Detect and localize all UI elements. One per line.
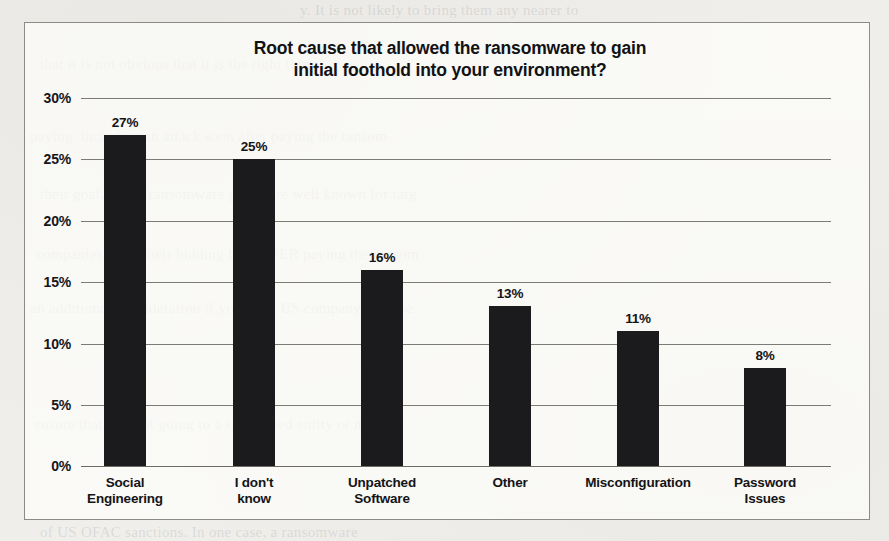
gridline-10 bbox=[81, 344, 831, 345]
bar-value-password-issues: 8% bbox=[725, 348, 805, 363]
gridline-0-baseline bbox=[81, 466, 831, 467]
bar-password-issues[interactable] bbox=[744, 368, 786, 466]
gridline-5 bbox=[81, 405, 831, 406]
bar-value-unpatched-software: 16% bbox=[342, 250, 422, 265]
ytick-label-15: 15% bbox=[25, 274, 71, 290]
bar-misconfiguration[interactable] bbox=[617, 331, 659, 466]
category-label-misconfiguration: Misconfiguration bbox=[573, 475, 703, 491]
category-label-unpatched-software: Unpatched Software bbox=[317, 475, 447, 506]
category-label-password-issues: Password Issues bbox=[700, 475, 830, 506]
bar-value-social-engineering: 27% bbox=[85, 115, 165, 130]
category-label-line: Misconfiguration bbox=[585, 475, 691, 490]
gridline-25 bbox=[81, 159, 831, 160]
ghost-text-line: of US OFAC sanctions. In one case, a ran… bbox=[40, 524, 358, 541]
category-label-line: Password bbox=[734, 475, 796, 490]
category-label-line: Other bbox=[492, 475, 527, 490]
plot-area: 30% 25% 20% 15% 10% 5% 0% 27% Social Eng… bbox=[25, 23, 871, 521]
bar-i-dont-know[interactable] bbox=[233, 159, 275, 466]
ytick-label-20: 20% bbox=[25, 213, 71, 229]
category-label-line: know bbox=[237, 491, 271, 506]
ytick-label-30: 30% bbox=[25, 90, 71, 106]
chart-container: Root cause that allowed the ransomware t… bbox=[24, 22, 870, 520]
bar-value-other: 13% bbox=[470, 286, 550, 301]
category-label-line: Social bbox=[106, 475, 145, 490]
bar-unpatched-software[interactable] bbox=[361, 270, 403, 466]
gridline-20 bbox=[81, 221, 831, 222]
category-label-line: Software bbox=[354, 491, 409, 506]
gridline-30 bbox=[81, 98, 831, 99]
ytick-label-0: 0% bbox=[25, 458, 71, 474]
category-label-line: Engineering bbox=[87, 491, 163, 506]
bar-social-engineering[interactable] bbox=[104, 135, 146, 466]
bar-value-i-dont-know: 25% bbox=[214, 139, 294, 154]
ghost-text-line: y. It is not likely to bring them any ne… bbox=[300, 2, 578, 19]
category-label-line: I don't bbox=[235, 475, 274, 490]
ytick-label-5: 5% bbox=[25, 397, 71, 413]
category-label-line: Issues bbox=[745, 491, 786, 506]
ytick-label-10: 10% bbox=[25, 336, 71, 352]
bar-value-misconfiguration: 11% bbox=[598, 311, 678, 326]
category-label-i-dont-know: I don't know bbox=[189, 475, 319, 506]
ytick-label-25: 25% bbox=[25, 151, 71, 167]
bar-other[interactable] bbox=[489, 306, 531, 466]
category-label-other: Other bbox=[445, 475, 575, 491]
category-label-social-engineering: Social Engineering bbox=[60, 475, 190, 506]
gridline-15 bbox=[81, 282, 831, 283]
category-label-line: Unpatched bbox=[348, 475, 416, 490]
